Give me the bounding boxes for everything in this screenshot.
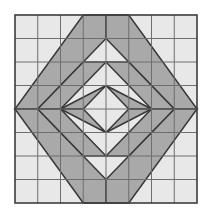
quilt-figure <box>0 0 212 220</box>
quilt-svg <box>0 0 212 220</box>
